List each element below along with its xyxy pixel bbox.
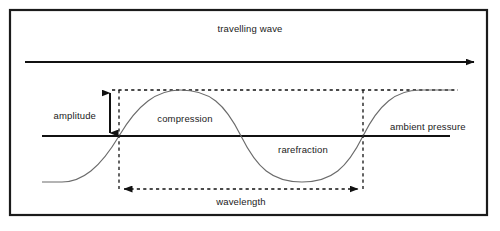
wave-diagram-screenshot: travelling wave amplitude compression ra… [0, 0, 500, 231]
ambient-pressure-label: ambient pressure [390, 121, 466, 132]
amplitude-label: amplitude [53, 110, 96, 121]
rarefraction-label: rarefraction [278, 144, 328, 155]
wavelength-label: wavelength [215, 196, 266, 207]
compression-label: compression [157, 113, 213, 124]
travelling-wave-label: travelling wave [217, 23, 282, 34]
travelling-wave-diagram: travelling wave amplitude compression ra… [0, 0, 500, 231]
